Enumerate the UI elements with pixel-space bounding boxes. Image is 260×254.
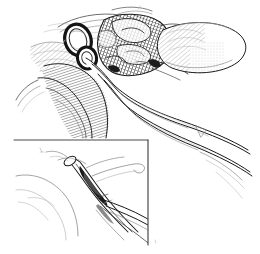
illustration-canvas <box>0 0 260 254</box>
figure-root <box>0 0 260 254</box>
inset-closeup <box>14 140 166 254</box>
